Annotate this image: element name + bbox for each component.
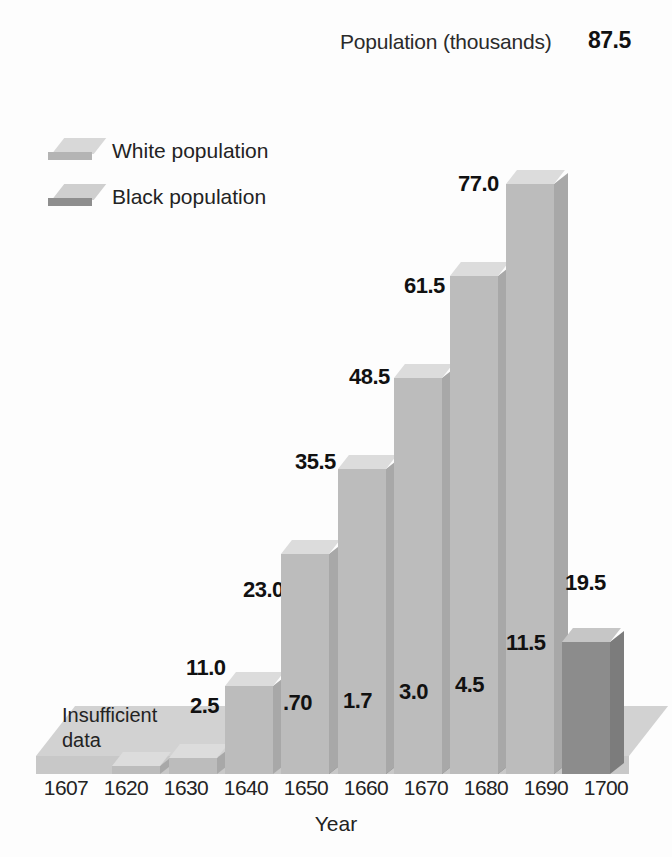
bar-1620-white-front — [112, 766, 160, 774]
bar-1640-white-front — [225, 686, 273, 774]
value-label-1680-black: 4.5 — [455, 672, 484, 698]
value-label-1700-black: 19.5 — [565, 570, 606, 596]
bar-1690 — [506, 184, 554, 774]
value-label-1660-black: 1.7 — [343, 688, 372, 714]
bar-1700-black-front — [562, 642, 610, 774]
bar-1690-white-front — [506, 184, 554, 774]
xtick-1660: 1660 — [336, 776, 396, 800]
value-label-1640-white: 23.0 — [243, 577, 284, 603]
insufficient-data-line2: data — [62, 728, 157, 753]
bar-1680-white-front — [450, 276, 498, 774]
bar-1630-white-front — [169, 758, 217, 774]
bar-1650 — [281, 554, 329, 774]
bar-1640 — [225, 686, 273, 774]
value-label-1660-white: 48.5 — [349, 364, 390, 390]
value-label-1620-white: 2.5 — [190, 693, 219, 719]
xtick-1680: 1680 — [456, 776, 516, 800]
value-label-1650-black: .70 — [283, 690, 312, 716]
xtick-1630: 1630 — [156, 776, 216, 800]
xtick-1700: 1700 — [576, 776, 636, 800]
bar-1660-white-front — [338, 469, 386, 774]
bar-1660 — [338, 469, 386, 774]
x-axis-label: Year — [0, 812, 672, 836]
plot-area: Insufficient data 2.5 11.0 23.0 — [0, 0, 672, 857]
value-label-1680-white: 77.0 — [458, 171, 499, 197]
xtick-1607: 1607 — [36, 776, 96, 800]
xtick-1650: 1650 — [276, 776, 336, 800]
bar-1620 — [112, 766, 160, 774]
value-label-1670-white: 61.5 — [404, 273, 445, 299]
xtick-1690: 1690 — [516, 776, 576, 800]
bar-1670 — [394, 378, 442, 774]
xtick-1670: 1670 — [396, 776, 456, 800]
x-axis-ticks: 1607 1620 1630 1640 1650 1660 1670 1680 … — [36, 776, 636, 800]
bar-1680 — [450, 276, 498, 774]
value-label-1690-black: 11.5 — [506, 630, 546, 656]
bar-1630 — [169, 758, 217, 774]
population-bar-chart: Population (thousands) 87.5 White popula… — [0, 0, 672, 857]
xtick-1640: 1640 — [216, 776, 276, 800]
value-label-1650-white: 35.5 — [295, 449, 336, 475]
bar-1700 — [562, 642, 610, 774]
value-label-1630-white: 11.0 — [186, 655, 226, 681]
xtick-1620: 1620 — [96, 776, 156, 800]
insufficient-data-annotation: Insufficient data — [62, 703, 157, 753]
bar-1670-white-front — [394, 378, 442, 774]
value-label-1670-black: 3.0 — [399, 679, 428, 705]
bar-1700-black-side — [610, 631, 624, 774]
bar-1650-white-front — [281, 554, 329, 774]
insufficient-data-line1: Insufficient — [62, 703, 157, 728]
